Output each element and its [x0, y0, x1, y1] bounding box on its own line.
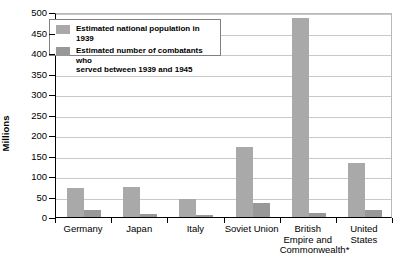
y-axis-title: Millions — [0, 0, 14, 267]
bar — [348, 163, 365, 217]
legend-entry-label: Estimated number of combatants who serve… — [76, 46, 216, 75]
y-axis-tick-mark — [49, 95, 55, 96]
x-axis-tick-mark — [111, 218, 112, 223]
y-axis-tick-label: 50 — [14, 193, 47, 203]
y-axis-tick-mark — [49, 198, 55, 199]
y-axis-tick-labels: 050100150200250300350400450500 — [14, 0, 47, 267]
x-axis-tick-mark — [167, 218, 168, 223]
legend-swatch-icon — [56, 47, 70, 56]
bar — [84, 210, 101, 217]
bar — [253, 203, 270, 217]
x-axis-tick-mark — [336, 218, 337, 223]
bar-group — [236, 14, 270, 217]
y-axis-tick-mark — [49, 13, 55, 14]
y-axis-tick-label: 250 — [14, 111, 47, 121]
legend-entry: Estimated number of combatants who serve… — [56, 46, 216, 75]
bar — [179, 199, 196, 217]
y-axis-tick-label: 300 — [14, 90, 47, 100]
bar — [140, 214, 157, 217]
bar — [67, 188, 84, 217]
legend-entry-label: Estimated national population in 1939 — [76, 24, 216, 43]
y-axis-tick-label: 100 — [14, 172, 47, 182]
bar — [365, 210, 382, 217]
y-axis-tick-label: 450 — [14, 29, 47, 39]
y-axis-tick-mark — [49, 218, 55, 219]
legend-entry: Estimated national population in 1939 — [56, 24, 216, 43]
y-axis-tick-label: 200 — [14, 131, 47, 141]
bar — [236, 147, 253, 217]
y-axis-tick-label: 150 — [14, 152, 47, 162]
y-axis-tick-mark — [49, 136, 55, 137]
x-axis-label: British Empire and Commonwealth* — [280, 224, 336, 256]
y-axis-tick-mark — [49, 177, 55, 178]
y-axis-tick-mark — [49, 54, 55, 55]
y-axis-tick-label: 400 — [14, 49, 47, 59]
legend-swatch-icon — [56, 25, 70, 34]
bar — [123, 187, 140, 217]
y-axis-tick-mark — [49, 157, 55, 158]
x-axis-tick-mark — [280, 218, 281, 223]
bar-group — [348, 14, 382, 217]
x-axis-tick-mark — [55, 218, 56, 223]
x-axis-label: United States — [336, 224, 392, 245]
bar — [292, 18, 309, 217]
y-axis-tick-mark — [49, 34, 55, 35]
y-axis-tick-label: 0 — [14, 213, 47, 223]
y-axis-tick-label: 500 — [14, 8, 47, 18]
bar-group — [292, 14, 326, 217]
x-axis-tick-mark — [392, 218, 393, 223]
x-axis-label: Japan — [111, 224, 167, 235]
x-axis-label: Soviet Union — [224, 224, 280, 235]
x-axis-label: Italy — [167, 224, 223, 235]
y-axis-tick-label: 350 — [14, 70, 47, 80]
bar — [309, 213, 326, 217]
bar — [196, 215, 213, 217]
bar-chart: Millions 050100150200250300350400450500 … — [0, 0, 404, 267]
x-axis-label: Germany — [55, 224, 111, 235]
y-axis-tick-mark — [49, 75, 55, 76]
y-axis-tick-mark — [49, 116, 55, 117]
chart-legend: Estimated national population in 1939 Es… — [49, 19, 221, 56]
